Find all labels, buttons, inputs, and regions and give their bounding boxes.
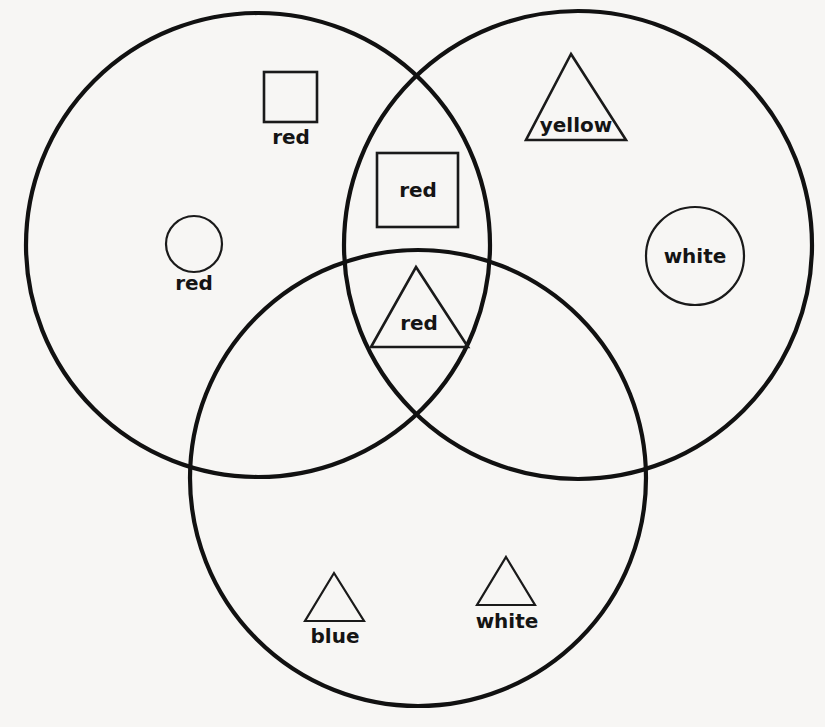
triangle-icon bbox=[477, 557, 535, 605]
set-circles-group bbox=[26, 11, 812, 706]
shape-circle-white-right[interactable]: white bbox=[646, 207, 744, 305]
shape-square-red-left[interactable]: red bbox=[264, 72, 317, 149]
circle-icon bbox=[166, 216, 222, 272]
shape-label: red bbox=[400, 311, 438, 335]
shape-label: yellow bbox=[540, 113, 613, 137]
shapes-group: red red red yellow white bbox=[166, 54, 744, 648]
shape-triangle-white[interactable]: white bbox=[476, 557, 539, 633]
square-icon bbox=[264, 72, 317, 122]
shape-square-red-center[interactable]: red bbox=[377, 153, 458, 227]
triangle-icon bbox=[305, 573, 364, 621]
venn-diagram-canvas: red red red yellow white bbox=[0, 0, 825, 727]
shape-triangle-yellow[interactable]: yellow bbox=[526, 54, 626, 140]
shape-triangle-red-center[interactable]: red bbox=[371, 267, 468, 347]
left-circle[interactable] bbox=[26, 13, 490, 477]
shape-label: red bbox=[399, 178, 437, 202]
shape-circle-red-left[interactable]: red bbox=[166, 216, 222, 295]
shape-label: white bbox=[476, 609, 539, 633]
shape-label: white bbox=[664, 244, 727, 268]
venn-diagram-page: red red red yellow white bbox=[0, 0, 825, 727]
shape-label: red bbox=[272, 125, 310, 149]
shape-triangle-blue[interactable]: blue bbox=[305, 573, 364, 648]
shape-label: red bbox=[175, 271, 213, 295]
shape-label: blue bbox=[311, 624, 360, 648]
triangle-icon bbox=[371, 267, 468, 347]
